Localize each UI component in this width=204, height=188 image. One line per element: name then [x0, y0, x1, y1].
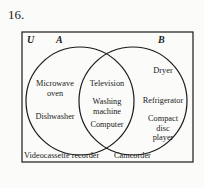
set-b-label: B: [158, 34, 165, 45]
region-intersection-item: Washing machine: [82, 97, 132, 116]
region-a-only-item: Microwave oven: [33, 79, 77, 98]
item-camcorder: Camcorder: [114, 151, 151, 161]
item-washing-line1: Washing: [82, 97, 132, 107]
item-dryer: Dryer: [140, 66, 186, 76]
item-television: Television: [82, 79, 132, 89]
item-microwave-line1: Microwave: [33, 79, 77, 89]
item-computer: Computer: [82, 120, 132, 130]
item-cd-line1: Compact: [140, 114, 186, 124]
item-dishwasher: Dishwasher: [33, 112, 77, 122]
item-microwave-line2: oven: [33, 89, 77, 99]
item-washing-line2: machine: [82, 107, 132, 117]
region-b-only-item: Compact disc player: [140, 114, 186, 143]
universe-label: U: [27, 34, 34, 45]
item-refrigerator: Refrigerator: [138, 96, 188, 106]
item-vcr: Videocassette recorder: [24, 151, 99, 161]
item-cd-line3: player: [140, 133, 186, 143]
set-a-label: A: [56, 34, 63, 45]
item-cd-line2: disc: [140, 124, 186, 134]
